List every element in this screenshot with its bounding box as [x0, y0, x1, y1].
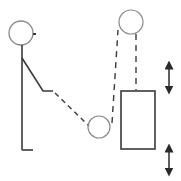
rope-segment-lower-to-upper-pulley — [112, 30, 118, 123]
lower-pulley-circle — [88, 116, 110, 138]
stick-figure-person — [9, 21, 53, 150]
rope-segment-hand-to-lower-pulley — [55, 93, 89, 126]
person-head — [9, 21, 33, 45]
box-weight — [121, 91, 155, 149]
pulley-diagram: Person pulling rope over pulleys to lift… — [0, 0, 181, 181]
person-arm — [22, 58, 53, 91]
upper-pulley-circle — [119, 10, 143, 34]
diagram-canvas — [0, 0, 181, 181]
